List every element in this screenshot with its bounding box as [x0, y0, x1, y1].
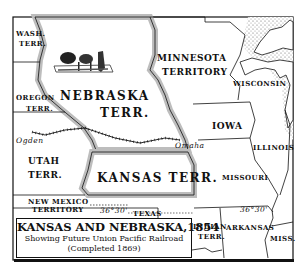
label-minnesota-territory: TERRITORY: [162, 67, 227, 77]
label-new-mexico-territory: TERRITORY: [32, 205, 84, 214]
label-utah: UTAH: [28, 156, 60, 166]
label-parallel-east: 36°30': [240, 205, 268, 214]
label-ogden: Ogden: [16, 136, 44, 145]
label-miss: MISS.: [270, 234, 296, 243]
label-wisconsin: WISCONSIN: [232, 79, 287, 88]
map-title: KANSAS AND NEBRASKA,1854: [17, 221, 191, 234]
label-texas: TEXAS: [133, 209, 162, 218]
label-missouri: MISSOURI: [222, 173, 268, 182]
label-arkansas: ARKANSAS: [225, 223, 274, 232]
label-omaha: Omaha: [175, 141, 205, 150]
label-oregon-terr: TERR.: [26, 104, 53, 113]
label-parallel-west: 36°30': [100, 206, 128, 215]
label-minnesota: MINNESOTA: [157, 53, 227, 63]
label-nebraska: NEBRASKA: [60, 89, 149, 103]
label-wash-terr: TERR.: [19, 39, 46, 48]
label-oregon: OREGON: [16, 93, 55, 102]
map-completed-note: (Completed 1869): [17, 244, 191, 254]
label-utah-terr: TERR.: [28, 170, 62, 180]
label-wash: WASH.: [15, 29, 45, 38]
label-nebraska-terr: TERR.: [100, 106, 150, 120]
frame-shadow: [14, 259, 294, 262]
label-iowa: IOWA: [212, 121, 243, 131]
label-illinois: ILLINOIS: [253, 143, 294, 152]
label-kansas-terr: KANSAS TERR.: [97, 171, 218, 185]
map-subtitle: Showing Future Union Pacific Railroad: [17, 234, 191, 244]
map-title-cartouche: KANSAS AND NEBRASKA,1854 Showing Future …: [16, 218, 192, 258]
